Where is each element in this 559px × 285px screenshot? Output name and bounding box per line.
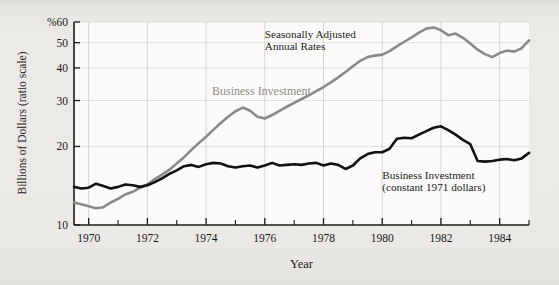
x-tick-label-1972: 1972 — [136, 232, 159, 244]
x-axis-title: Year — [290, 257, 314, 271]
y-tick-label-20: 20 — [57, 140, 69, 152]
annotation-gray-series-label: Business Investment — [212, 84, 312, 98]
annotation-black-series-label-line2: (constant 1971 dollars) — [382, 181, 485, 194]
y-tick-label-40: 40 — [57, 62, 69, 74]
y-axis-title: Billions of Dollars (ratio scale) — [16, 51, 29, 194]
annotation-seasonally-adjusted-line1: Seasonally Adjusted — [265, 28, 356, 40]
y-tick-label-30: 30 — [57, 95, 69, 107]
plot-background — [74, 22, 529, 225]
page-background: %605040302010 19701972197419761978198019… — [0, 0, 559, 285]
x-tick-label-1984: 1984 — [488, 232, 511, 244]
x-tick-label-1970: 1970 — [77, 232, 100, 244]
y-tick-label-10: 10 — [57, 219, 69, 231]
annotation-seasonally-adjusted-line2: Annual Rates — [265, 40, 326, 52]
x-tick-label-1976: 1976 — [253, 232, 276, 244]
x-tick-label-1980: 1980 — [371, 232, 394, 244]
y-tick-label-60: %60 — [47, 16, 68, 28]
annotation-black-series-label-line1: Business Investment — [382, 169, 475, 181]
x-axis-tick-labels: 19701972197419761978198019821984 — [77, 232, 511, 244]
y-axis-tick-labels: %605040302010 — [47, 16, 68, 231]
x-tick-label-1982: 1982 — [429, 232, 452, 244]
y-tick-label-50: 50 — [57, 37, 69, 49]
x-tick-label-1978: 1978 — [312, 232, 335, 244]
x-tick-label-1974: 1974 — [195, 232, 218, 244]
chart-svg: %605040302010 19701972197419761978198019… — [0, 0, 559, 285]
chart-figure: %605040302010 19701972197419761978198019… — [0, 0, 559, 285]
